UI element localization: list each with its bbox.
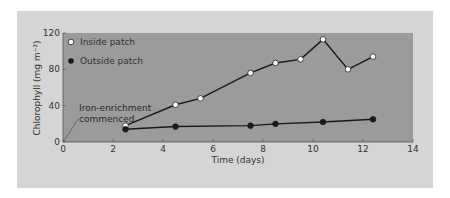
y-axis-label: Chlorophyll (mg m⁻²) <box>32 40 42 135</box>
y-tick-label: 80 <box>49 64 61 74</box>
open-circle-marker-icon <box>173 102 179 108</box>
legend-inside-label: Inside patch <box>80 37 135 47</box>
x-tick-label: 12 <box>357 144 368 154</box>
filled-circle-marker-icon <box>370 116 376 122</box>
x-tick-label: 14 <box>407 144 419 154</box>
legend-filled-circle-icon <box>68 58 74 64</box>
x-tick-label: 10 <box>307 144 319 154</box>
filled-circle-marker-icon <box>248 123 254 129</box>
y-tick-label: 0 <box>54 137 60 147</box>
open-circle-marker-icon <box>320 37 326 43</box>
x-tick-label: 0 <box>60 144 66 154</box>
open-circle-marker-icon <box>298 57 304 63</box>
annotation-line2: commenced <box>79 114 134 124</box>
y-tick-label: 120 <box>43 28 60 38</box>
filled-circle-marker-icon <box>173 124 179 130</box>
y-tick-label: 40 <box>49 101 61 111</box>
open-circle-marker-icon <box>370 54 376 60</box>
line-chart: 0246810121404080120 Iron-enrichment comm… <box>0 0 450 198</box>
filled-circle-marker-icon <box>273 121 279 127</box>
x-tick-label: 4 <box>160 144 166 154</box>
open-circle-marker-icon <box>273 60 279 66</box>
filled-circle-marker-icon <box>320 119 326 125</box>
x-tick-label: 8 <box>260 144 266 154</box>
legend-open-circle-icon <box>68 39 74 45</box>
annotation-line1: Iron-enrichment <box>79 103 152 113</box>
legend-outside-label: Outside patch <box>80 56 143 66</box>
open-circle-marker-icon <box>345 67 351 73</box>
x-tick-label: 6 <box>210 144 216 154</box>
open-circle-marker-icon <box>248 70 254 76</box>
filled-circle-marker-icon <box>123 126 129 132</box>
open-circle-marker-icon <box>198 96 204 102</box>
x-axis-label: Time (days) <box>210 155 264 165</box>
x-tick-label: 2 <box>110 144 116 154</box>
